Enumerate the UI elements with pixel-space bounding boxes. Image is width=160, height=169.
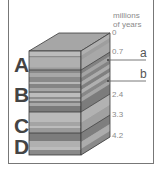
unit-label-a: A — [14, 54, 29, 75]
axis-title-line1: millions — [113, 11, 141, 20]
axis-title-line2: of years — [113, 20, 141, 29]
tick-label-2-4: 2.4 — [112, 91, 123, 99]
axis-title: millions of years — [113, 11, 141, 29]
tick-label-0: 0 — [112, 29, 116, 37]
tick-label-0-7: 0.7 — [112, 48, 123, 56]
unit-label-b: B — [14, 84, 29, 105]
marker-a-label: a — [140, 47, 147, 59]
unit-label-d: D — [14, 136, 29, 157]
tick-label-4-2: 4.2 — [112, 132, 123, 140]
unit-label-c: C — [14, 115, 29, 136]
marker-b-dot — [107, 80, 109, 82]
marker-a-dot — [107, 59, 109, 61]
block-right-face — [81, 33, 110, 155]
block-front-face — [29, 51, 81, 155]
marker-b-label: b — [140, 68, 147, 80]
tick-label-3-3: 3.3 — [112, 111, 123, 119]
